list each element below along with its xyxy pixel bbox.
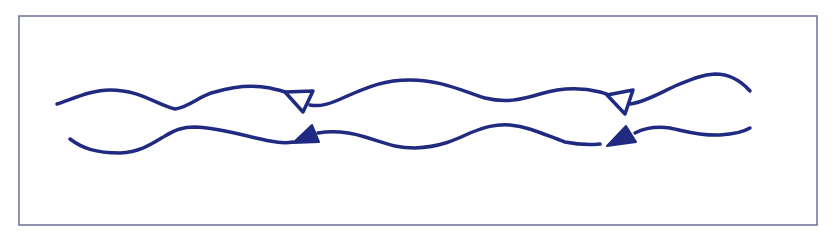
filled-arrowhead-2 bbox=[607, 126, 636, 146]
open-arrowhead-1 bbox=[285, 91, 313, 112]
diagram-frame bbox=[19, 16, 817, 225]
upper-line-segment-1 bbox=[57, 86, 285, 109]
open-arrowhead-2 bbox=[607, 90, 633, 114]
diagram-canvas bbox=[0, 0, 837, 236]
lower-line-segment-3 bbox=[635, 127, 750, 135]
lower-line-segment-2 bbox=[318, 125, 600, 148]
lower-line-segment-1 bbox=[70, 127, 293, 153]
upper-line-segment-3 bbox=[630, 74, 750, 104]
filled-arrowhead-1 bbox=[293, 125, 319, 143]
upper-line-segment-2 bbox=[310, 80, 608, 106]
